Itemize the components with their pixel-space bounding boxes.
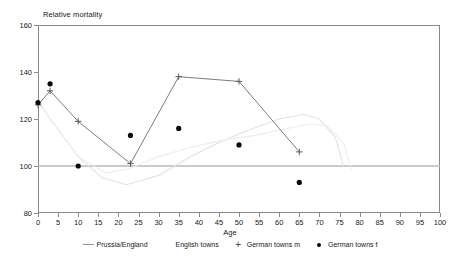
x-axis-label: Age [0, 228, 460, 237]
legend-line-icon [83, 240, 94, 249]
legend-label: Prussia/England [97, 241, 148, 248]
legend-item[interactable]: +German towns m [233, 240, 300, 249]
chart-legend: Prussia/EnglandEnglish towns+German town… [0, 240, 460, 249]
data-point-marker [48, 81, 53, 86]
legend-label: English towns [176, 241, 219, 248]
legend-dot-icon [314, 240, 325, 249]
legend-item[interactable]: English towns [162, 240, 219, 249]
legend-item[interactable]: German towns f [314, 240, 377, 249]
data-point-marker [128, 133, 133, 138]
legend-plus-icon: + [233, 240, 244, 249]
data-point-marker [236, 142, 241, 147]
data-point-marker [297, 180, 302, 185]
data-point-marker [176, 74, 182, 80]
series-line-2 [38, 77, 299, 164]
legend-label: German towns f [328, 241, 377, 248]
series-line-0 [38, 100, 344, 185]
legend-label: German towns m [247, 241, 300, 248]
chart-container: Relative mortality 80100120140160 051015… [0, 0, 460, 262]
legend-blank-icon [162, 240, 173, 249]
data-point-marker [76, 163, 81, 168]
data-point-marker [35, 100, 40, 105]
legend-item[interactable]: Prussia/England [83, 240, 148, 249]
data-point-marker [176, 126, 181, 131]
series-layer [0, 0, 460, 262]
